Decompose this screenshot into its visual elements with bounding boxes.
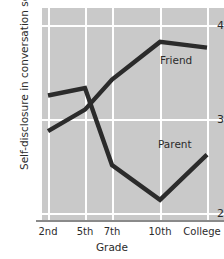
series-label-parent: Parent: [158, 138, 192, 150]
x-tick-label-7th: 7th: [92, 226, 132, 238]
x-tick-label-2nd: 2nd: [28, 226, 68, 238]
y-tick-label-3: 3: [190, 114, 224, 125]
y-tick-label-4: 4: [190, 20, 224, 31]
series-label-friend: Friend: [160, 54, 192, 66]
x-tick-label-10th: 10th: [139, 226, 181, 238]
x-axis-line: [36, 220, 224, 222]
y-tick-label-2: 2: [190, 208, 224, 219]
x-tick-label-college: College: [180, 226, 224, 238]
x-axis-title: Grade: [0, 241, 224, 253]
chart-figure: Friend Parent 4 3 2 2nd 5th 7th 10th Col…: [0, 0, 224, 259]
y-axis-title: Self-disclosure in conversation score: [18, 0, 30, 170]
